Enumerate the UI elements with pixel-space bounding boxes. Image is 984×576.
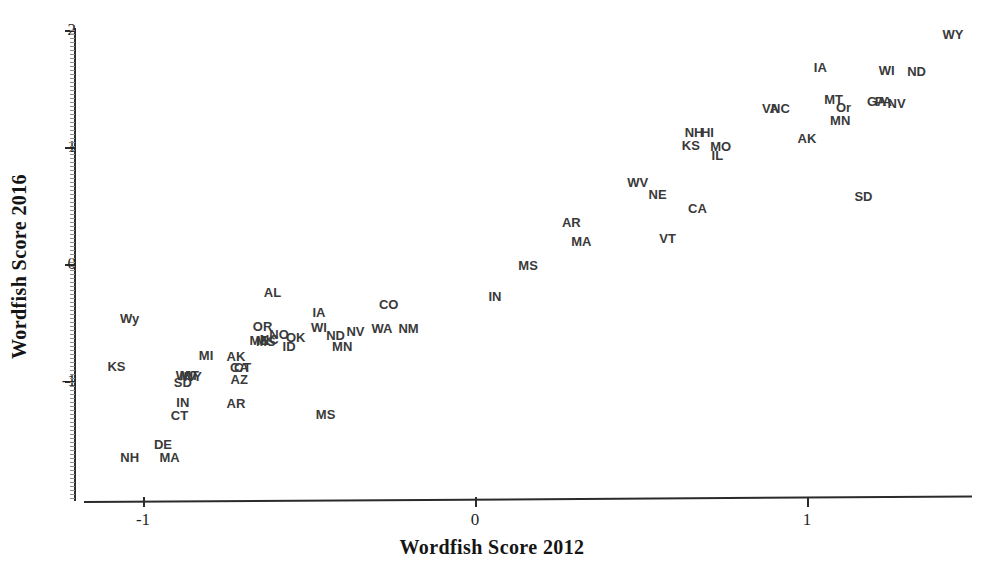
x-tick-label: 1 [803,510,812,530]
y-minor-tick [70,30,75,31]
y-minor-tick [70,206,75,207]
y-minor-tick [70,182,75,183]
y-minor-tick [70,442,75,443]
y-minor-tick [70,62,75,63]
y-minor-tick [70,390,75,391]
y-minor-tick [70,198,75,199]
y-minor-tick [70,450,75,451]
y-minor-tick [70,458,75,459]
y-minor-tick [70,234,75,235]
state-point-label: CT [171,408,188,421]
y-minor-tick [70,150,75,151]
y-minor-tick [70,186,75,187]
y-minor-tick [70,382,75,383]
y-minor-tick [70,242,75,243]
y-minor-tick [70,118,75,119]
state-point-label: HI [701,125,714,138]
y-minor-tick [70,266,75,267]
x-tick-mark [143,497,145,507]
y-minor-tick [70,418,75,419]
y-minor-tick [70,358,75,359]
y-minor-tick [70,246,75,247]
x-tick-label: 0 [471,510,480,530]
chart-root: -1012 -101 WYIAWINDGAPANVMTOrVANCMNNHHIA… [0,0,984,576]
y-minor-tick [70,194,75,195]
y-minor-tick [70,334,75,335]
y-minor-tick [70,298,75,299]
y-minor-tick [70,102,75,103]
y-minor-tick [70,474,75,475]
state-point-label: SD [174,376,192,389]
x-tick-mark [807,497,809,507]
y-minor-tick [70,74,75,75]
y-minor-tick [70,294,75,295]
y-minor-tick [70,218,75,219]
y-minor-tick [70,174,75,175]
y-minor-tick [70,302,75,303]
y-minor-tick [70,90,75,91]
y-tick-label: 0 [68,254,77,274]
y-minor-tick [70,270,75,271]
y-minor-tick [70,422,75,423]
y-minor-tick [70,210,75,211]
x-axis-line [84,496,972,503]
state-point-label: ID [283,339,296,352]
state-point-label: Wy [120,311,139,324]
y-minor-tick [70,290,75,291]
y-minor-tick [70,374,75,375]
state-point-label: NE [649,187,667,200]
y-minor-tick [70,54,75,55]
y-minor-tick [70,406,75,407]
y-minor-tick [70,122,75,123]
y-minor-tick [70,110,75,111]
y-minor-tick [70,394,75,395]
y-minor-tick [70,262,75,263]
y-minor-tick [70,354,75,355]
y-minor-tick [70,46,75,47]
y-minor-tick [70,66,75,67]
y-minor-tick [70,178,75,179]
state-point-label: NH [120,451,139,464]
y-minor-tick [70,438,75,439]
state-point-label: MS [316,407,336,420]
y-minor-tick [70,286,75,287]
x-tick-mark [475,497,477,507]
y-minor-tick [70,378,75,379]
y-minor-tick [70,58,75,59]
state-point-label: MA [571,234,591,247]
state-point-label: IA [312,305,325,318]
y-minor-tick [70,370,75,371]
state-point-label: WV [627,176,648,189]
y-minor-tick [70,402,75,403]
y-minor-tick [70,106,75,107]
y-minor-tick [70,94,75,95]
state-point-label: NV [888,96,906,109]
y-minor-tick [70,410,75,411]
state-point-label: WI [879,63,895,76]
state-point-label: MN [332,339,352,352]
y-minor-tick [70,326,75,327]
y-minor-tick [70,222,75,223]
y-minor-tick [70,398,75,399]
state-point-label: IL [712,149,724,162]
scatter-plot-area: -1012 -101 WYIAWINDGAPANVMTOrVANCMNNHHIA… [0,0,984,576]
y-minor-tick [70,346,75,347]
state-point-label: AZ [231,372,248,385]
state-point-label: WI [311,321,327,334]
state-point-label: IA [814,61,827,74]
state-point-label: MN [830,114,850,127]
y-minor-tick [70,446,75,447]
y-minor-tick [70,278,75,279]
y-minor-tick [70,170,75,171]
y-minor-tick [70,230,75,231]
y-minor-tick [70,38,75,39]
y-minor-tick [70,134,75,135]
y-minor-tick [70,478,75,479]
x-tick-label: -1 [136,510,150,530]
x-axis-title: Wordfish Score 2012 [0,536,984,559]
y-minor-tick [70,274,75,275]
y-minor-tick [70,466,75,467]
state-point-label: MI [199,349,213,362]
y-minor-tick [70,386,75,387]
y-minor-tick [70,214,75,215]
